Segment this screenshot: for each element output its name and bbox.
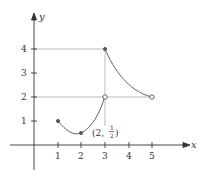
x-tick-label: 4 [126,151,132,161]
svg-text:(2,: (2, [92,128,104,138]
x-tick-label: 1 [55,151,61,161]
svg-text:2: 2 [110,132,114,139]
min-point-annotation: (2, 1 2 ) [92,124,119,139]
point-filled-1-1 [56,119,59,122]
curve-piece-2 [105,49,150,97]
svg-text:): ) [115,128,119,138]
y-tick-label: 3 [21,68,27,78]
y-axis-arrow-icon [32,13,37,20]
y-axis-label: y [38,11,45,22]
point-open-3-2 [103,95,107,99]
x-tick-label: 5 [149,151,155,161]
x-axis-arrow-icon [183,143,190,148]
y-tick-label: 2 [21,92,27,102]
point-open-5-2 [150,95,154,99]
x-axis-label: x [191,139,197,150]
y-tick-label: 4 [21,44,27,54]
x-tick-label: 3 [102,151,108,161]
point-filled-2-half [79,131,82,134]
function-graph: y x 1 2 3 4 5 1 2 3 4 (2, 1 2 ) [0,0,205,179]
x-tick-label: 2 [78,151,84,161]
point-filled-3-4 [103,47,106,50]
svg-text:1: 1 [110,124,114,131]
y-tick-label: 1 [21,116,27,126]
